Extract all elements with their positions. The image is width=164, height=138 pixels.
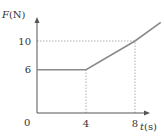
y-axis-label: F(N) [1,9,26,20]
x-axis-label: t(s) [140,121,157,132]
y-tick-label-6: 6 [25,64,31,75]
series-line-force [37,22,161,70]
force-time-chart: F(N) t(s) 0 48610 [0,0,164,138]
y-axis-arrow [35,17,40,23]
x-tick-label-8: 8 [132,118,138,129]
x-tick-label-4: 4 [83,118,89,129]
y-tick-label-10: 10 [18,36,31,47]
origin-label: 0 [24,117,30,128]
x-axis-arrow [144,111,150,116]
